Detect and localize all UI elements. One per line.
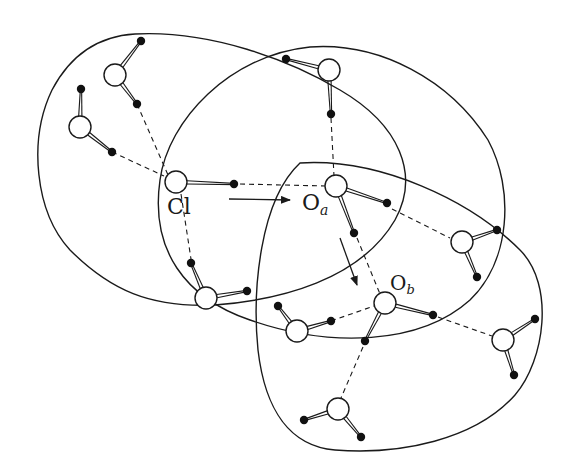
bond-line	[123, 41, 142, 67]
hydrogen-atom	[274, 302, 282, 310]
hydrogen-atom	[77, 85, 85, 93]
oxygen-atom	[195, 287, 217, 309]
arrow-cl-to-oa	[229, 199, 290, 200]
water-molecule	[274, 302, 335, 342]
bond-line	[347, 188, 387, 202]
hydrogen-atom	[429, 311, 437, 319]
arrows	[229, 199, 357, 285]
water-molecule	[492, 315, 539, 379]
bond-line	[187, 184, 234, 185]
chlorine-atom	[165, 171, 187, 193]
chloride-ion	[165, 171, 238, 193]
shell-ob	[256, 163, 542, 451]
oxygen-atom	[69, 116, 91, 138]
hydrogen-atom	[473, 273, 481, 281]
water-molecule	[104, 37, 145, 108]
bond-line	[88, 135, 112, 152]
water-molecule	[187, 259, 251, 309]
oxygen-atom	[104, 64, 126, 86]
hydrogen-atom	[383, 199, 391, 207]
bond-line	[346, 191, 387, 204]
hydrogen-atom	[187, 259, 195, 267]
shell-cl	[38, 34, 406, 306]
bond-line	[187, 181, 234, 184]
label-oa-main: O	[302, 190, 320, 215]
hydrogen-atom	[510, 371, 518, 379]
oxygen-atom	[451, 231, 473, 253]
water-molecule	[325, 175, 391, 237]
hydrogen-atom	[361, 337, 369, 345]
oxygen-atom	[492, 329, 514, 351]
label-ob-sub: b	[406, 282, 414, 297]
bond-line	[90, 133, 113, 152]
hbond	[357, 238, 380, 294]
label-cl: Cl	[167, 194, 191, 219]
water-molecule	[300, 398, 365, 441]
bond-line	[338, 197, 353, 233]
hydrogen-atom	[230, 180, 238, 188]
water-molecule	[69, 85, 116, 156]
water-molecule	[451, 226, 501, 281]
bond-line	[328, 81, 330, 114]
bond-line	[341, 196, 354, 233]
hbond	[392, 209, 450, 238]
hbond	[112, 152, 164, 176]
bond-line	[395, 307, 433, 315]
oxygen-atom	[286, 320, 308, 342]
hydrogen-atom	[300, 416, 308, 424]
hbond	[331, 118, 334, 176]
hydrogen-atom	[357, 433, 365, 441]
hydrogen-atom	[243, 287, 251, 295]
bond-line	[331, 81, 332, 114]
hydrogen-atom	[327, 317, 335, 325]
oxygen-atom	[318, 59, 340, 81]
arrow-oa-to-ob	[340, 238, 357, 285]
oxygen-atom	[327, 398, 349, 420]
bond-line	[396, 304, 433, 314]
label-ob: Ob	[390, 271, 415, 297]
hydrogen-atom	[350, 229, 358, 237]
molecules	[69, 37, 539, 441]
label-oa: Oa	[302, 190, 328, 218]
hbond	[438, 317, 492, 336]
hbond	[341, 347, 363, 398]
hydrogen-atom	[282, 55, 290, 63]
hydrogen-atom	[327, 110, 335, 118]
label-ob-main: O	[390, 271, 406, 295]
solvation-diagram: Cl Oa Ob	[0, 0, 573, 470]
oxygen-atom	[325, 175, 347, 197]
hydrogen-atom	[108, 148, 116, 156]
label-oa-sub: a	[320, 202, 328, 218]
hydrogen-atom	[133, 100, 141, 108]
hydrogen-atom	[137, 37, 145, 45]
hbond	[331, 306, 374, 321]
hbond	[137, 104, 168, 175]
oxygen-atom	[374, 292, 396, 314]
hydrogen-atom	[531, 315, 539, 323]
bond-line	[120, 41, 140, 66]
hydrogen-atom	[493, 226, 501, 234]
